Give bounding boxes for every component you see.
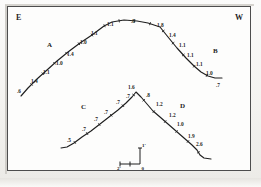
- upper-thickness-value-5: 1.0: [80, 40, 87, 45]
- figure-root: EWABCD.61.41.11.01.41.01.11.1.81.81.41.1…: [0, 0, 261, 187]
- scale-origin-label: 0: [142, 166, 145, 171]
- profile-drawing: [0, 0, 261, 187]
- upper-thickness-value-10: 1.4: [169, 33, 176, 38]
- profile-tick-marks: [30, 19, 207, 153]
- lower-thickness-value-11: 1.9: [188, 134, 195, 139]
- lower-thickness-value-5: .7: [126, 94, 130, 99]
- lower-thickness-value-0: .5: [67, 138, 71, 143]
- upper-thickness-value-11: 1.1: [179, 43, 186, 48]
- lower-thickness-value-3: .7: [104, 110, 108, 115]
- lower-thickness-value-12: 2.6: [196, 142, 203, 147]
- lower-thickness-value-7: .8: [146, 93, 150, 98]
- unit-label-d: D: [180, 103, 185, 110]
- upper-thickness-value-13: 1.1: [196, 62, 203, 67]
- east-marker: E: [16, 14, 22, 22]
- upper-thickness-value-1: 1.4: [31, 79, 38, 84]
- upper-thickness-value-7: 1.1: [107, 22, 114, 27]
- upper-thickness-value-6: 1.1: [91, 31, 98, 36]
- upper-thickness-value-4: 1.4: [67, 52, 74, 57]
- lower-thickness-value-10: 1.0: [177, 122, 184, 127]
- scale-cross-glyph: [120, 148, 142, 167]
- lower-thickness-value-6: 1.6: [128, 85, 135, 90]
- lower-thickness-value-8: 1.2: [156, 102, 163, 107]
- lower-thickness-value-9: 1.2: [169, 113, 176, 118]
- unit-label-a: A: [47, 42, 52, 49]
- scale-horizontal-label: 2': [117, 166, 121, 171]
- profile-tick: [119, 19, 120, 22]
- lower-thickness-value-2: .7: [94, 117, 98, 122]
- figure-plate: EWABCD.61.41.11.01.41.01.11.1.81.81.41.1…: [0, 0, 261, 187]
- upper-thickness-value-9: 1.8: [157, 23, 164, 28]
- lower-thickness-value-1: .7: [82, 127, 86, 132]
- profile-tick: [150, 22, 151, 25]
- upper-thickness-value-2: 1.1: [43, 70, 50, 75]
- upper-thickness-value-0: .6: [17, 89, 21, 94]
- west-marker: W: [235, 14, 243, 22]
- lower-thickness-value-4: .7: [116, 100, 120, 105]
- unit-label-c: C: [81, 104, 86, 111]
- upper-thickness-value-15: .7: [216, 83, 220, 88]
- profile-tick: [104, 24, 105, 27]
- upper-thickness-value-12: 1.1: [187, 53, 194, 58]
- upper-thickness-value-3: 1.0: [56, 61, 63, 66]
- upper-thickness-value-8: .8: [131, 19, 135, 24]
- scale-vertical-label: 1': [142, 143, 146, 148]
- page-edge-bottom: [0, 178, 261, 187]
- upper-thickness-value-14: 1.0: [206, 71, 213, 76]
- unit-label-b: B: [213, 48, 218, 55]
